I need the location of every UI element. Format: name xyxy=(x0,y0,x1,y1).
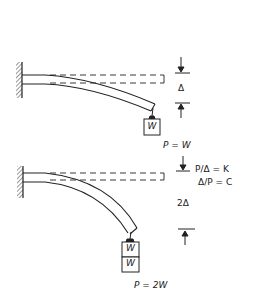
weight-label-2b: W xyxy=(122,258,139,268)
figure-1-beam xyxy=(16,57,190,135)
fixed-wall-2 xyxy=(17,166,23,198)
weight-label-2a: W xyxy=(122,243,139,253)
load-label-2: P = 2W xyxy=(134,280,167,290)
fixed-wall-1 xyxy=(16,62,22,98)
load-label-1: P = W xyxy=(163,140,191,150)
deflected-beam-2 xyxy=(23,173,137,234)
deflection-label-1: Δ xyxy=(178,83,184,93)
weight-label-1: W xyxy=(144,121,160,131)
deflection-label-2: 2Δ xyxy=(177,198,189,208)
stiffness-formula: P/Δ = K xyxy=(195,164,229,174)
undeflected-beam-outline-1 xyxy=(50,75,164,83)
deflected-beam-1 xyxy=(22,75,155,111)
compliance-formula: Δ/P = C xyxy=(198,177,232,187)
figure-2-beam xyxy=(17,156,195,272)
